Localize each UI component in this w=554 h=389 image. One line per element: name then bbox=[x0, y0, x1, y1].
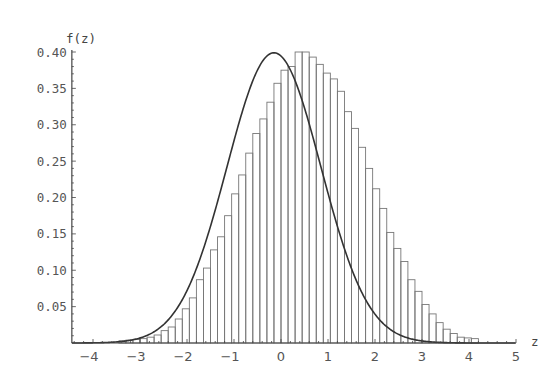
x-tick-label: 2 bbox=[371, 349, 379, 364]
x-tick-label: 0 bbox=[277, 349, 285, 364]
y-axis-label: f(z) bbox=[66, 31, 96, 46]
y-tick-label: 0.40 bbox=[37, 45, 67, 60]
histogram-chart: −4−3−2−10123450.050.100.150.200.250.300.… bbox=[0, 0, 554, 389]
histogram-bar bbox=[232, 194, 239, 343]
histogram-bar bbox=[309, 57, 316, 343]
x-axis-label: z bbox=[531, 334, 539, 349]
histogram-bar bbox=[196, 280, 203, 343]
x-tick-label: −2 bbox=[173, 349, 192, 364]
histogram-bar bbox=[337, 91, 344, 343]
x-tick-label: −3 bbox=[126, 349, 145, 364]
histogram-bar bbox=[239, 175, 246, 343]
histogram-bar bbox=[401, 262, 408, 343]
histogram-bar bbox=[443, 329, 450, 343]
histogram-bar bbox=[267, 102, 274, 343]
axes: −4−3−2−10123450.050.100.150.200.250.300.… bbox=[37, 45, 520, 365]
histogram-bar bbox=[203, 268, 210, 343]
histogram-bar bbox=[161, 331, 168, 343]
histogram-bar bbox=[246, 153, 253, 343]
histogram-bar bbox=[415, 291, 422, 343]
density-curve bbox=[72, 53, 516, 343]
histogram-bar bbox=[225, 216, 232, 343]
histogram-bar bbox=[288, 67, 295, 343]
histogram-bar bbox=[189, 298, 196, 343]
histogram-bar bbox=[352, 128, 359, 343]
x-tick-label: 5 bbox=[512, 349, 520, 364]
histogram-bar bbox=[140, 339, 147, 343]
x-tick-label: 1 bbox=[324, 349, 332, 364]
histogram-bar bbox=[175, 319, 182, 343]
histogram-bar bbox=[323, 73, 330, 343]
histogram-bar bbox=[330, 79, 337, 343]
histogram-bar bbox=[408, 280, 415, 343]
histogram-bar bbox=[316, 64, 323, 343]
histogram-bar bbox=[168, 327, 175, 343]
histogram-bar bbox=[182, 309, 189, 343]
y-tick-label: 0.25 bbox=[37, 154, 67, 169]
histogram-bar bbox=[429, 314, 436, 343]
histogram-bar bbox=[422, 304, 429, 343]
histogram-bar bbox=[387, 232, 394, 343]
histogram-bar bbox=[154, 335, 161, 343]
histogram-bars bbox=[119, 52, 479, 343]
y-tick-label: 0.10 bbox=[37, 263, 67, 278]
y-tick-label: 0.15 bbox=[37, 226, 67, 241]
histogram-bar bbox=[302, 52, 309, 343]
histogram-bar bbox=[147, 337, 154, 343]
histogram-bar bbox=[450, 334, 457, 343]
y-tick-label: 0.20 bbox=[37, 190, 67, 205]
y-tick-label: 0.35 bbox=[37, 81, 67, 96]
histogram-bar bbox=[274, 83, 281, 343]
histogram-bar bbox=[211, 250, 218, 343]
histogram-bar bbox=[394, 248, 401, 343]
histogram-bar bbox=[436, 323, 443, 343]
histogram-bar bbox=[366, 168, 373, 343]
y-tick-label: 0.05 bbox=[37, 299, 67, 314]
y-tick-label: 0.30 bbox=[37, 117, 67, 132]
histogram-bar bbox=[218, 237, 225, 343]
x-tick-label: 4 bbox=[465, 349, 473, 364]
histogram-bar bbox=[281, 70, 288, 343]
histogram-bar bbox=[253, 133, 260, 343]
histogram-bar bbox=[344, 112, 351, 343]
x-tick-label: −4 bbox=[79, 349, 98, 364]
histogram-bar bbox=[359, 147, 366, 343]
histogram-bar bbox=[260, 119, 267, 343]
x-tick-label: −1 bbox=[220, 349, 239, 364]
x-tick-label: 3 bbox=[418, 349, 426, 364]
